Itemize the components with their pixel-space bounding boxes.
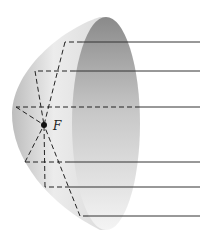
parabolic-reflector-diagram: F (0, 0, 211, 244)
dish-inner-opening (72, 17, 140, 230)
focus-label: F (52, 119, 62, 133)
focus-point (41, 122, 47, 128)
